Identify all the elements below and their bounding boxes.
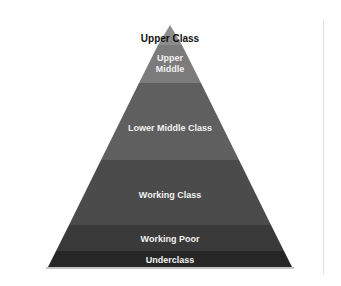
label-working-poor: Working Poor [70, 234, 270, 245]
label-working-class: Working Class [70, 190, 270, 201]
label-upper-middle-2: Middle [70, 64, 270, 75]
label-underclass: Underclass [70, 255, 270, 266]
level-lower-middle [101, 83, 239, 160]
divider-line [323, 20, 324, 275]
label-upper-middle-1: Upper [70, 53, 270, 64]
label-upper-class: Upper Class [70, 33, 270, 44]
label-lower-middle: Lower Middle Class [70, 123, 270, 134]
